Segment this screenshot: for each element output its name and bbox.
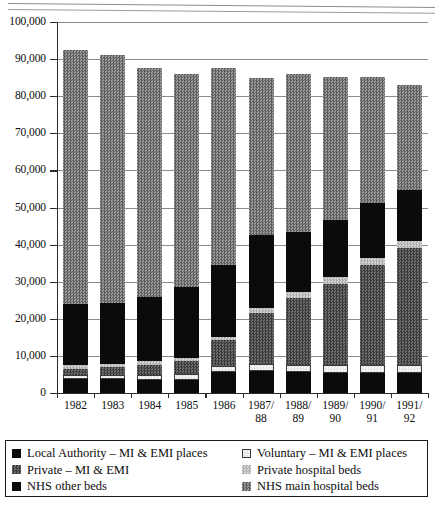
x-tick-mark [428,393,429,398]
bar-segment [63,375,88,379]
bar-segment [63,365,88,368]
bar-segment [137,375,162,380]
bar-segment [63,369,88,375]
bar-segment [211,366,236,372]
bar-segment [397,85,422,190]
bar-segment [360,365,385,373]
y-tick-label: 90,000 [15,52,46,64]
bar-segment [397,365,422,373]
legend-swatch-icon [12,482,21,491]
y-axis-line [57,22,58,394]
bar-segment [211,265,236,337]
bar-segment [249,308,274,314]
bar-1982 [63,22,88,393]
bar-1989/90 [323,22,348,393]
chart-legend: Local Authority – MI & EMI placesPrivate… [5,440,428,497]
x-tick-mark [205,393,206,398]
y-tick-label: 40,000 [15,238,46,250]
bar-segment [360,77,385,203]
legend-swatch-icon [12,449,21,458]
bar-segment [174,74,199,287]
bar-segment [249,371,274,393]
bar-segment [137,365,162,375]
legend-item: Private hospital beds [242,462,427,478]
bar-segment [323,220,348,278]
bar-segment [63,304,88,365]
bar-segment [286,298,311,364]
legend-item-label: Local Authority – MI & EMI places [27,446,208,460]
bar-segment [100,364,125,367]
x-tick-mark [391,393,392,398]
bar-segment [323,77,348,220]
legend-item-label: NHS main hospital beds [257,479,379,493]
bar-1987/88 [249,22,274,393]
bar-segment [397,241,422,248]
y-tick-label: 0 [40,386,46,398]
bar-segment [286,292,311,298]
bar-segment [100,55,125,302]
bar-segment [397,373,422,393]
x-tick-mark [317,393,318,398]
bar-segment [211,68,236,265]
legend-item: Private – MI & EMI [12,462,237,478]
bar-1988/89 [286,22,311,393]
bar-segment [360,265,385,365]
y-tick-label: 100,000 [9,15,46,27]
bar-1985 [174,22,199,393]
bar-segment [249,364,274,371]
bar-1990/91 [360,22,385,393]
bar-segment [360,373,385,393]
legend-item-label: Private – MI & EMI [27,463,129,477]
bar-segment [286,365,311,372]
legend-item-label: Voluntary – MI & EMI places [257,446,407,460]
x-tick-mark [354,393,355,398]
bar-segment [137,297,162,362]
y-tick-label: 20,000 [15,312,46,324]
bar-segment [63,50,88,304]
x-tick-mark [280,393,281,398]
y-tick-label: 50,000 [15,201,46,213]
bar-segment [286,372,311,393]
bar-segment [174,374,199,380]
legend-swatch-icon [242,465,251,474]
bar-segment [137,68,162,296]
legend-item: Local Authority – MI & EMI places [12,445,237,461]
x-tick-mark [57,393,58,398]
bar-segment [249,235,274,307]
bar-segment [63,379,88,393]
x-tick-mark [131,393,132,398]
legend-column-right: Voluntary – MI & EMI placesPrivate hospi… [242,445,427,495]
legend-item-label: Private hospital beds [257,463,361,477]
y-tick-label: 80,000 [15,89,46,101]
bar-segment [174,380,199,393]
y-tick-label: 70,000 [15,126,46,138]
bar-segment [137,380,162,393]
bar-segment [249,313,274,364]
bar-segment [397,248,422,365]
legend-item: Voluntary – MI & EMI places [242,445,427,461]
bar-segment [323,373,348,393]
legend-column-left: Local Authority – MI & EMI placesPrivate… [12,445,237,495]
x-tick-mark [243,393,244,398]
bar-segment [323,365,348,372]
y-tick-label: 30,000 [15,275,46,287]
bar-segment [100,303,125,364]
legend-item-label: NHS other beds [27,479,107,493]
bar-1986 [211,22,236,393]
x-tick-mark [94,393,95,398]
bar-segment [100,375,125,379]
bar-segment [286,74,311,232]
y-tick-label: 10,000 [15,349,46,361]
y-tick-label: 60,000 [15,163,46,175]
bar-1983 [100,22,125,393]
bar-segment [397,190,422,241]
legend-swatch-icon [12,465,21,474]
bar-segment [360,203,385,258]
bar-segment [137,361,162,364]
bar-segment [211,340,236,365]
bar-segment [100,367,125,375]
legend-swatch-icon [242,449,251,458]
x-tick-label: 1991/ 92 [381,399,435,424]
bar-segment [174,361,199,374]
x-tick-mark [168,393,169,398]
